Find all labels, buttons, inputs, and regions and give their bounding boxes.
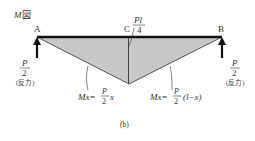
reaction-arrow-left [33,37,41,58]
svg-text:Mx=: Mx= [149,92,168,102]
svg-text:P: P [173,87,179,96]
svg-text:Mx=: Mx= [77,92,96,102]
svg-text:(l−x): (l−x) [183,92,202,102]
formula-left: Mx= P 2 x [77,87,114,106]
svg-text:4: 4 [137,25,142,35]
svg-text:2: 2 [22,68,27,78]
reaction-label-left: P 2 (反力) [16,58,34,87]
point-label-a: A [34,24,41,34]
moment-area [37,37,222,84]
svg-text:x: x [109,92,114,102]
leader-line-right [170,66,172,90]
svg-text:2: 2 [174,97,178,106]
svg-text:P: P [101,87,107,96]
svg-text:(反力): (反力) [16,78,34,87]
reaction-arrow-right [218,37,226,58]
reaction-label-right: P 2 (反力) [226,58,244,87]
svg-text:2: 2 [102,97,106,106]
formula-right: Mx= P 2 (l−x) [149,87,202,106]
point-label-c: C [124,24,130,34]
diagram-title: M図 [13,10,31,20]
svg-text:P: P [21,58,28,68]
svg-text:(反力): (反力) [226,78,244,87]
point-label-b: B [218,24,224,34]
moment-diagram: M図 A C B Pl 4 P 2 (反力) P 2 (反力) Mx= P [0,0,255,141]
caption: (b) [120,120,129,129]
svg-text:Pl: Pl [133,15,142,25]
svg-text:2: 2 [232,68,237,78]
leader-line-left [87,66,89,90]
svg-text:P: P [231,58,238,68]
